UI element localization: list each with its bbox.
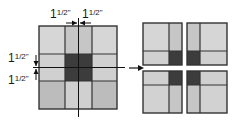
corner-bottom-left bbox=[39, 81, 65, 109]
arrow-right-icon bbox=[138, 65, 144, 71]
diagram-canvas: 11/2" 11/2" 11/2" 11/2" bbox=[0, 0, 234, 134]
quarter-top-left bbox=[143, 23, 182, 65]
label-top-right: 11/2" bbox=[82, 7, 103, 21]
corner-top-left bbox=[39, 26, 65, 54]
label-side-top: 11/2" bbox=[8, 51, 29, 65]
label-top-left: 11/2" bbox=[50, 7, 71, 21]
arrow-down-icon bbox=[34, 61, 39, 66]
arrow-left-icon bbox=[80, 21, 85, 26]
dimension-top: 11/2" 11/2" bbox=[50, 7, 103, 26]
corner-bottom-right bbox=[92, 81, 117, 109]
quarter-bottom-left bbox=[143, 71, 182, 113]
quarter-bottom-right bbox=[187, 71, 227, 113]
arrow-up-icon bbox=[34, 69, 39, 74]
arrow-right-icon bbox=[72, 21, 77, 26]
dimension-side: 11/2" 11/2" bbox=[8, 51, 39, 87]
quarter-top-right bbox=[187, 23, 227, 65]
result-arrow bbox=[129, 65, 144, 71]
source-block bbox=[33, 18, 125, 117]
corner-top-right bbox=[92, 26, 117, 54]
label-side-bottom: 11/2" bbox=[8, 73, 29, 87]
